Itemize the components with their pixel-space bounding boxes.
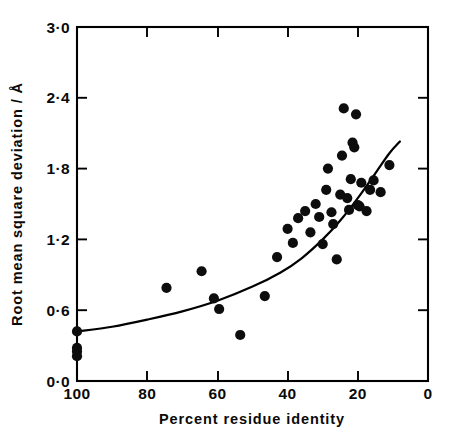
data-point — [361, 206, 371, 216]
x-axis-ticks-top — [147, 27, 358, 37]
data-point — [365, 185, 375, 195]
x-tick-label: 20 — [349, 385, 367, 402]
data-point — [376, 187, 386, 197]
y-tick-label: 3·0 — [46, 19, 70, 36]
y-tick-label: 1·2 — [46, 231, 70, 248]
data-point — [72, 351, 82, 361]
data-point — [328, 219, 338, 229]
data-point — [344, 205, 354, 215]
figure-container: 100806040200 0·00·61·21·82·43·0 Percent … — [0, 0, 451, 440]
data-point — [323, 164, 333, 174]
data-point — [337, 151, 347, 161]
data-point — [356, 178, 366, 188]
data-point — [351, 109, 361, 119]
data-point — [339, 103, 349, 113]
data-point — [260, 291, 270, 301]
data-point — [161, 283, 171, 293]
data-point — [384, 160, 394, 170]
scatter-plot: 100806040200 0·00·61·21·82·43·0 Percent … — [0, 0, 451, 440]
data-point — [346, 174, 356, 184]
x-axis-title: Percent residue identity — [159, 411, 345, 427]
data-point — [300, 206, 310, 216]
data-point — [321, 185, 331, 195]
data-point — [214, 304, 224, 314]
x-axis-tick-labels: 100806040200 — [63, 385, 432, 402]
data-point — [342, 193, 352, 203]
y-tick-label: 2·4 — [46, 89, 70, 106]
y-tick-label: 1·8 — [46, 160, 70, 177]
data-point — [368, 175, 378, 185]
data-point — [209, 293, 219, 303]
data-point — [332, 254, 342, 264]
x-axis-ticks-bottom — [147, 371, 358, 381]
scatter-points-group — [72, 103, 395, 361]
data-point — [235, 330, 245, 340]
x-tick-label: 60 — [208, 385, 226, 402]
data-point — [318, 239, 328, 249]
data-point — [349, 142, 359, 152]
x-tick-label: 80 — [138, 385, 156, 402]
data-point — [305, 227, 315, 237]
fitted-trend-curve — [77, 141, 400, 331]
data-point — [272, 252, 282, 262]
data-point — [326, 207, 336, 217]
data-point — [288, 238, 298, 248]
data-point — [311, 199, 321, 209]
data-point — [314, 212, 324, 222]
y-axis-ticks-left — [77, 98, 87, 310]
y-axis-tick-labels: 0·00·61·21·82·43·0 — [46, 19, 70, 390]
y-tick-label: 0·0 — [46, 373, 70, 390]
y-axis-title: Root mean square deviation / Å — [9, 82, 25, 326]
x-tick-label: 0 — [423, 385, 432, 402]
data-point — [283, 224, 293, 234]
data-point — [72, 326, 82, 336]
y-axis-ticks-right — [418, 98, 428, 310]
plot-frame — [77, 27, 428, 381]
y-tick-label: 0·6 — [46, 302, 70, 319]
x-tick-label: 40 — [279, 385, 297, 402]
data-point — [197, 266, 207, 276]
